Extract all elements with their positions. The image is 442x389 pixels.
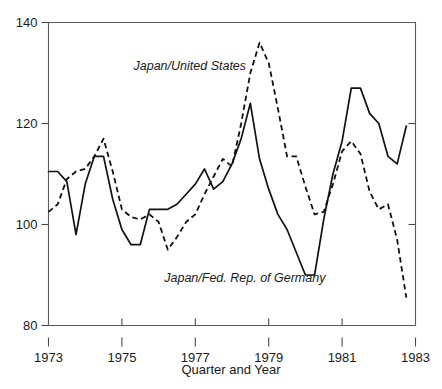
x-tick-label: 1983	[401, 350, 430, 365]
series-line	[49, 88, 407, 275]
line-chart-figure: 80100120140 197319751977197919811983 Jap…	[0, 0, 442, 389]
x-tick-label: 1973	[34, 350, 63, 365]
x-tick-label: 1981	[328, 350, 357, 365]
x-axis-title: Quarter and Year	[181, 362, 281, 377]
chart-container: 80100120140 197319751977197919811983 Jap…	[0, 0, 442, 389]
x-axis-ticks	[49, 319, 416, 347]
x-tick-label: 1975	[107, 350, 136, 365]
series-layer	[49, 43, 407, 298]
y-tick-label: 120	[16, 116, 38, 131]
series-line	[49, 43, 407, 298]
series-annotation-label: Japan/Fed. Rep. of Germany	[163, 271, 326, 285]
y-tick-label: 140	[16, 15, 38, 30]
y-axis-tick-labels: 80100120140	[16, 15, 38, 333]
y-tick-label: 100	[16, 217, 38, 232]
series-annotations: Japan/United StatesJapan/Fed. Rep. of Ge…	[133, 59, 327, 285]
y-tick-label: 80	[23, 318, 37, 333]
series-annotation-label: Japan/United States	[133, 59, 247, 73]
